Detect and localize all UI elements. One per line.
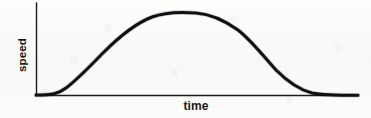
speed-curve: [36, 12, 358, 95]
speed-curve-toner-bleed: [36, 12, 358, 95]
figure-canvas: speed time: [0, 0, 371, 118]
y-axis-label: speed: [16, 38, 28, 72]
x-axis-label: time: [183, 99, 208, 113]
